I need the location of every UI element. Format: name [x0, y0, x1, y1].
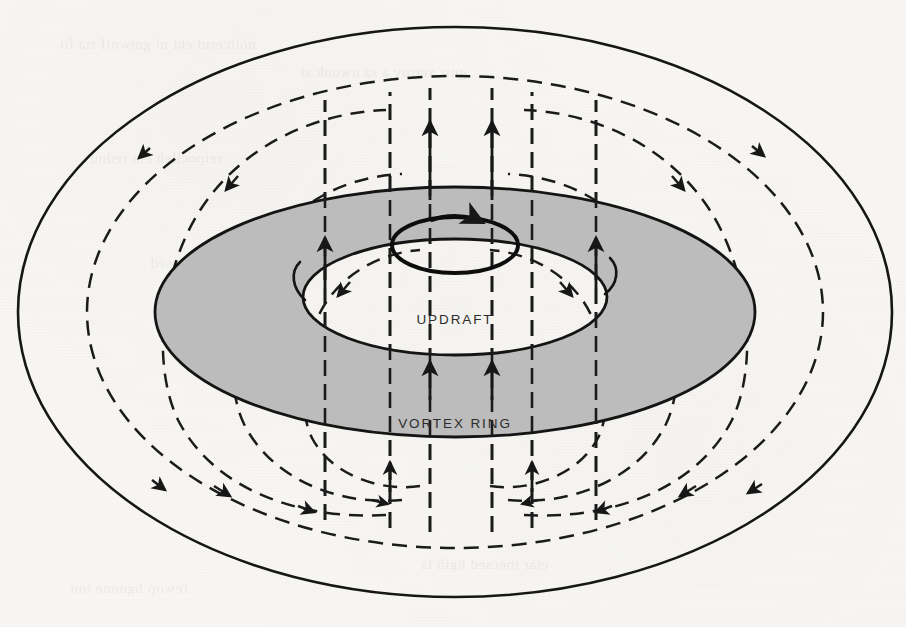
vortex-ring-diagram: UPDRAFT VORTEX RING	[0, 0, 906, 627]
updraft-label: UPDRAFT	[416, 312, 493, 327]
figure-canvas: noitcerid eht ni gniwolf ria fo gnir xet…	[0, 0, 906, 627]
vortex-ring-label: VORTEX RING	[398, 416, 512, 431]
